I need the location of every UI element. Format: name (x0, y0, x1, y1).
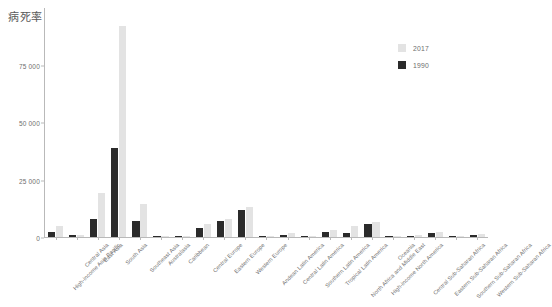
bar-1990 (153, 236, 160, 237)
plot-area: 025 00050 00075 000 (44, 8, 488, 238)
bar-2017 (77, 235, 84, 237)
bar-group (45, 8, 66, 237)
y-axis-tick-mark (41, 238, 44, 239)
bar-group (66, 8, 87, 237)
bar-2017 (457, 236, 464, 237)
bar-2017 (372, 222, 379, 237)
bar-1990 (280, 235, 287, 237)
bar-group (150, 8, 171, 237)
bar-group (425, 8, 446, 237)
legend-label: 1990 (413, 62, 429, 69)
bar-2017 (140, 204, 147, 237)
bar-1990 (217, 221, 224, 237)
bar-2017 (436, 232, 443, 237)
bar-1990 (343, 233, 350, 237)
bar-2017 (204, 224, 211, 237)
bar-group (172, 8, 193, 237)
bar-1990 (48, 232, 55, 237)
bar-group (383, 8, 404, 237)
bar-group (235, 8, 256, 237)
bar-2017 (393, 236, 400, 237)
bar-1990 (69, 235, 76, 237)
bar-1990 (364, 224, 371, 237)
bar-group (298, 8, 319, 237)
bar-2017 (119, 26, 126, 237)
bar-1990 (132, 221, 139, 237)
bar-group (467, 8, 488, 237)
chart-title: 病死率 (8, 8, 43, 24)
bar-2017 (98, 193, 105, 237)
bar-1990 (196, 228, 203, 237)
bar-group (277, 8, 298, 237)
bar-group (361, 8, 382, 237)
legend-swatch-icon (398, 61, 406, 69)
bar-group (193, 8, 214, 237)
bar-2017 (246, 207, 253, 237)
bar-2017 (351, 226, 358, 237)
bar-group (129, 8, 150, 237)
x-axis-labels: High-income Asia PacificCentral AsiaEast… (45, 239, 488, 307)
bar-2017 (309, 236, 316, 237)
bar-1990 (238, 210, 245, 237)
bar-1990 (90, 219, 97, 237)
bar-1990 (449, 236, 456, 237)
bar-group (404, 8, 425, 237)
bar-group (446, 8, 467, 237)
bar-2017 (161, 236, 168, 237)
bar-1990 (428, 233, 435, 237)
bar-group (214, 8, 235, 237)
bar-2017 (267, 236, 274, 237)
bar-group (256, 8, 277, 237)
bar-2017 (56, 226, 63, 237)
bars-layer (45, 8, 488, 237)
bar-group (319, 8, 340, 237)
bar-1990 (470, 235, 477, 237)
bar-1990 (111, 148, 118, 237)
bar-1990 (407, 236, 414, 237)
y-axis-tick-mark (41, 65, 44, 66)
legend-swatch-icon (398, 44, 406, 52)
bar-group (87, 8, 108, 237)
bar-1990 (259, 236, 266, 237)
x-axis-tick-label: South Asia (124, 242, 148, 266)
bar-1990 (175, 236, 182, 237)
bar-group (108, 8, 129, 237)
bar-2017 (478, 234, 485, 237)
bar-2017 (330, 230, 337, 237)
legend-label: 2017 (413, 45, 429, 52)
y-axis-tick-mark (41, 123, 44, 124)
bar-1990 (385, 236, 392, 237)
legend-item: 2017 (398, 44, 429, 52)
bar-2017 (288, 233, 295, 237)
y-axis-tick-mark (41, 180, 44, 181)
legend-item: 1990 (398, 61, 429, 69)
bar-1990 (301, 236, 308, 237)
bar-group (340, 8, 361, 237)
bar-1990 (322, 232, 329, 237)
bar-2017 (415, 235, 422, 237)
bar-2017 (183, 236, 190, 237)
chart-legend: 20171990 (398, 44, 429, 69)
bar-2017 (225, 219, 232, 237)
